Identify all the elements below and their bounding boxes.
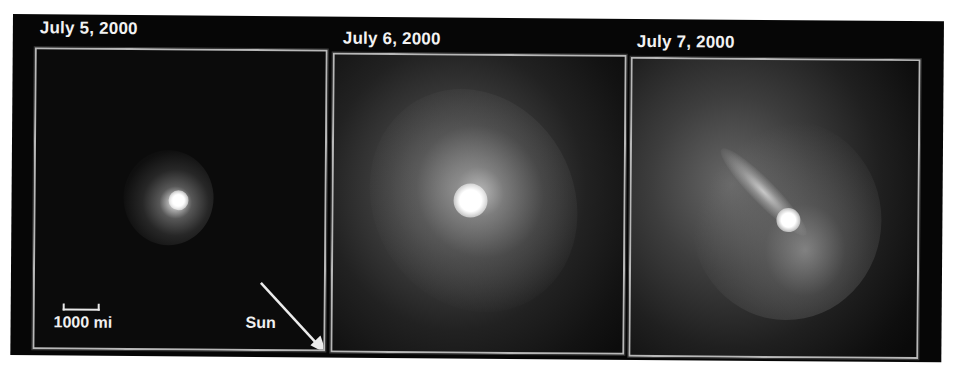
coma-glow [123,150,214,246]
ion-tail-streak [713,141,814,243]
panel-1-date-label: July 5, 2000 [40,19,138,37]
nucleus-core [168,190,188,210]
nucleus-core [453,183,487,217]
panel-3-date-label: July 7, 2000 [637,33,735,51]
scale-bar [63,303,100,310]
panel-2-image [330,53,626,355]
panel-2-date-label: July 6, 2000 [343,30,441,48]
panel-3-image [628,57,920,359]
nucleus-core [776,208,800,232]
comet-figure: July 5, 2000 1000 mi Sun July 6, 2000 Ju… [10,14,944,362]
panel-1-image: 1000 mi Sun [32,47,327,351]
coma-glow [691,119,883,320]
coma-glow [330,53,617,350]
sun-direction-arrow-icon [252,275,327,352]
scale-bar-label: 1000 mi [54,314,113,330]
